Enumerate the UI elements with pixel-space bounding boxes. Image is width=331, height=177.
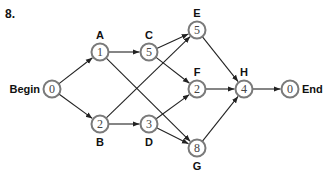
- project-network-diagram: 8. 0Begin1A2B5C3D5E2F8G4H0End: [0, 0, 331, 177]
- edge-begin-to-b: [59, 94, 92, 118]
- node-label: G: [193, 160, 202, 172]
- node-end: 0End: [282, 81, 323, 98]
- node-label: Begin: [9, 83, 40, 95]
- edge-begin-to-a: [59, 58, 93, 84]
- node-duration: 0: [287, 82, 293, 96]
- problem-number: 8.: [5, 7, 15, 21]
- edge-d-to-g: [157, 128, 189, 144]
- node-duration: 5: [146, 45, 152, 59]
- node-label: D: [145, 136, 153, 148]
- node-duration: 2: [97, 117, 103, 131]
- node-label: H: [240, 66, 248, 78]
- edge-c-to-f: [156, 57, 190, 83]
- node-duration: 8: [194, 141, 200, 155]
- node-label: E: [193, 7, 200, 19]
- node-f: 2F: [189, 66, 206, 98]
- node-duration: 3: [146, 117, 152, 131]
- node-b: 2B: [92, 116, 109, 149]
- node-duration: 0: [49, 82, 55, 96]
- node-e: 5E: [189, 7, 206, 39]
- edge-c-to-e: [157, 34, 189, 49]
- edge-d-to-f: [156, 95, 189, 119]
- node-begin: 0Begin: [9, 81, 60, 98]
- node-d: 3D: [141, 116, 158, 149]
- node-label: End: [302, 83, 323, 95]
- node-h: 4H: [236, 66, 253, 98]
- node-duration: 4: [241, 82, 247, 96]
- node-c: 5C: [141, 29, 158, 61]
- node-label: A: [96, 29, 104, 41]
- node-label: C: [145, 29, 153, 41]
- node-label: F: [194, 66, 201, 78]
- node-duration: 1: [97, 45, 103, 59]
- edge-g-to-h: [202, 96, 238, 141]
- node-duration: 5: [194, 23, 200, 37]
- node-g: 8G: [189, 140, 206, 173]
- node-duration: 2: [194, 82, 200, 96]
- edge-e-to-h: [202, 37, 238, 82]
- node-label: B: [96, 136, 104, 148]
- node-a: 1A: [92, 29, 109, 61]
